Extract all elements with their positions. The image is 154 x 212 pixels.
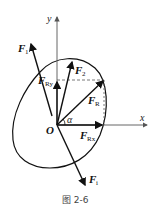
svg-text:1: 1 [25, 48, 29, 56]
angle-label: α [67, 114, 73, 125]
svg-text:R: R [95, 100, 100, 108]
label-fr: F R [87, 94, 100, 108]
force-diagram: y x O α F 1 F 2 F R F Ry F Rx F i 图 2-6 [0, 0, 154, 212]
angle-arc [63, 119, 65, 125]
svg-text:Rx: Rx [87, 135, 96, 143]
x-axis-label: x [139, 112, 145, 123]
label-fry: F Ry [37, 74, 53, 88]
origin-label: O [46, 124, 54, 136]
label-frx: F Rx [79, 129, 96, 143]
svg-text:i: i [96, 179, 98, 187]
label-fi: F i [88, 173, 98, 187]
svg-text:2: 2 [82, 70, 86, 78]
y-axis-label: y [46, 13, 52, 24]
label-f2: F 2 [74, 64, 86, 78]
svg-text:Ry: Ry [45, 80, 53, 88]
figure-caption: 图 2-6 [62, 195, 89, 205]
label-f1: F 1 [17, 42, 29, 56]
